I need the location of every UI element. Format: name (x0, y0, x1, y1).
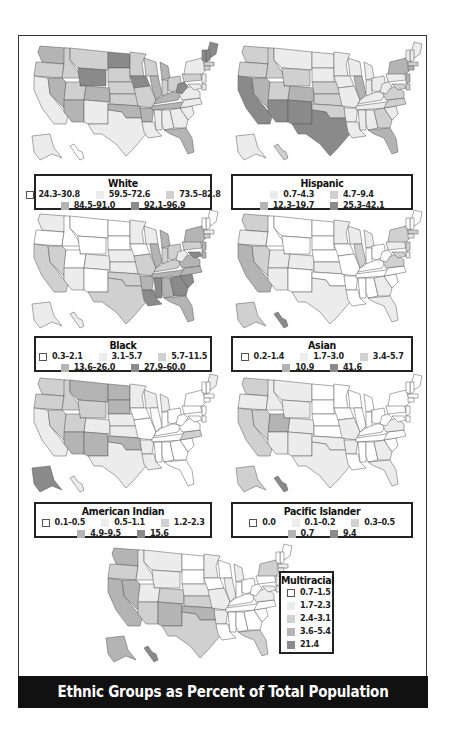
legend-swatch (77, 530, 85, 538)
legend-swatch (330, 530, 338, 538)
legend-swatch (270, 191, 278, 199)
state-wi (144, 58, 158, 76)
legend-swatch (292, 519, 300, 527)
state-wa (38, 378, 66, 396)
legend-item: 0.7–1.5 (287, 586, 331, 599)
legend-item: 0.2–1.4 (241, 351, 285, 362)
legend-label: 0.3–0.5 (364, 517, 395, 528)
state-nd (108, 220, 130, 236)
state-wa (38, 46, 66, 64)
state-hi (70, 144, 84, 160)
legend-swatch (287, 589, 295, 597)
state-fl (164, 460, 194, 486)
legend-american-indian: American Indian0.1–0.50.5–1.11.2–2.34.9–… (34, 502, 212, 538)
state-in (366, 412, 372, 428)
state-vt (406, 382, 410, 394)
state-wy (282, 236, 310, 254)
state-co (288, 86, 314, 102)
state-ak (32, 466, 62, 492)
state-fl (368, 296, 398, 322)
legend-label: 24.3–30.8 (39, 189, 80, 200)
state-de (202, 84, 206, 90)
legend-label: 3.1–5.7 (112, 351, 143, 362)
state-or (34, 230, 64, 246)
legend-label: 0.5–1.1 (114, 517, 145, 528)
legend-item: 24.3–30.8 (26, 189, 80, 200)
state-mn (130, 52, 146, 76)
state-ct (204, 234, 210, 238)
map-black (22, 206, 222, 336)
state-nd (108, 52, 130, 68)
state-or (34, 394, 64, 410)
legend-item: 3.1–5.7 (99, 351, 143, 362)
legend-label: 1.2–2.3 (174, 517, 205, 528)
legend-label: 3.4–5.7 (373, 351, 404, 362)
state-nh (410, 382, 414, 394)
state-co (84, 254, 110, 270)
state-ne (108, 414, 136, 426)
legend-item: 73.5–82.8 (166, 189, 220, 200)
state-ak (32, 302, 62, 328)
map-multiracial (96, 540, 296, 670)
legend-hispanic: Hispanic0.7–4.34.7–9.412.3–19.725.3–42.1 (231, 174, 413, 210)
legend-item: 1.7–3.0 (300, 351, 344, 362)
state-de (406, 84, 410, 90)
legend-swatch (287, 628, 295, 636)
state-ma (408, 62, 418, 66)
state-co (84, 86, 110, 102)
legend-item: 15.6 (137, 528, 169, 539)
legend-pacific-islander: Pacific Islander0.00.1–0.20.3–0.50.79.4 (231, 502, 413, 538)
state-co (288, 418, 314, 434)
legend-label: 0.0 (262, 517, 275, 528)
state-nd (312, 384, 334, 400)
map-asian (226, 206, 426, 336)
state-fl (368, 460, 398, 486)
state-wi (218, 560, 232, 578)
state-ma (204, 62, 214, 66)
legend-item: 21.4 (287, 638, 319, 651)
state-mn (334, 220, 350, 244)
state-nm (158, 602, 182, 626)
state-nj (406, 406, 410, 416)
legend-title: Pacific Islander (233, 505, 411, 517)
state-mi (160, 394, 170, 412)
state-wi (348, 226, 362, 244)
state-nh (280, 552, 284, 564)
state-ct (204, 66, 210, 70)
state-nd (182, 554, 204, 570)
legend-label: 0.7–4.3 (283, 189, 314, 200)
state-sd (108, 236, 130, 250)
state-in (236, 582, 242, 598)
legend-item: 0.1–0.2 (292, 517, 336, 528)
state-wy (78, 400, 106, 418)
legend-swatch (26, 191, 34, 199)
state-vt (202, 382, 206, 394)
state-hi (274, 144, 288, 160)
state-wy (282, 68, 310, 86)
state-nd (312, 220, 334, 236)
legend-title: White (36, 177, 210, 189)
state-wi (144, 226, 158, 244)
state-fl (164, 128, 194, 154)
legend-item: 0.1–0.5 (42, 517, 86, 528)
legend-item: 0.5–1.1 (101, 517, 145, 528)
state-hi (274, 312, 288, 328)
state-de (406, 416, 410, 422)
state-in (162, 412, 168, 428)
state-ne (312, 414, 340, 426)
state-mi (364, 394, 374, 412)
state-nh (410, 218, 414, 230)
state-hi (70, 312, 84, 328)
legend-label: 0.3–2.1 (52, 351, 83, 362)
legend-label: 2.4–3.1 (300, 612, 331, 625)
state-hi (274, 476, 288, 492)
state-ak (106, 636, 136, 662)
state-ak (236, 466, 266, 492)
state-mi (364, 230, 374, 248)
state-nm (288, 432, 312, 456)
legend-swatch (351, 519, 359, 527)
legend-item: 5.7–11.5 (158, 351, 207, 362)
state-fl (238, 630, 268, 656)
legend-swatch (39, 353, 47, 361)
state-mn (130, 220, 146, 244)
